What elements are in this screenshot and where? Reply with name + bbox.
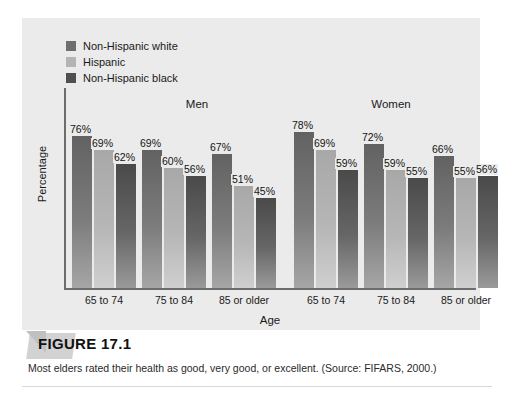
- bar-value-label: 76%: [69, 124, 92, 135]
- bar: [164, 168, 184, 288]
- caption-divider: [22, 386, 492, 387]
- bar: [316, 150, 336, 288]
- bar: [434, 156, 454, 288]
- bar: [94, 150, 114, 288]
- bar: [386, 170, 406, 288]
- figure-caption-block: FIGURE 17.1 Most elders rated their heal…: [0, 330, 513, 401]
- bar-value-label: 59%: [335, 158, 358, 169]
- bar-group: 67%51%45%: [212, 88, 276, 288]
- bar: [212, 154, 232, 288]
- legend-label: Non-Hispanic black: [83, 72, 178, 84]
- bar: [116, 164, 136, 288]
- figure-number: FIGURE 17.1: [38, 335, 131, 352]
- bar: [364, 144, 384, 288]
- category-label: 65 to 74: [64, 294, 144, 306]
- bar: [72, 136, 92, 288]
- y-axis-title: Percentage: [36, 134, 48, 214]
- legend-swatch-icon: [66, 41, 76, 51]
- category-label: 75 to 84: [134, 294, 214, 306]
- bar-value-label: 62%: [113, 152, 136, 163]
- bar: [478, 176, 498, 288]
- bar-group: 76%69%62%: [72, 88, 136, 288]
- legend-item-hispanic: Hispanic: [66, 54, 178, 69]
- category-label: 65 to 74: [286, 294, 366, 306]
- bar: [338, 170, 358, 288]
- bar: [186, 176, 206, 288]
- legend-label: Hispanic: [83, 56, 125, 68]
- bar: [456, 178, 476, 288]
- category-label: 75 to 84: [356, 294, 436, 306]
- bar-value-label: 59%: [383, 158, 406, 169]
- bar: [234, 186, 254, 288]
- bar-value-label: 67%: [209, 142, 232, 153]
- category-label: 85 or older: [426, 294, 506, 306]
- bar-value-label: 55%: [405, 166, 428, 177]
- bar-value-label: 69%: [139, 138, 162, 149]
- bar-value-label: 69%: [91, 138, 114, 149]
- legend-item-non-hispanic-white: Non-Hispanic white: [66, 38, 178, 53]
- bar-value-label: 56%: [475, 164, 498, 175]
- bar-value-label: 66%: [431, 144, 454, 155]
- figure-root: Non-Hispanic white Hispanic Non-Hispanic…: [0, 0, 513, 401]
- legend-label: Non-Hispanic white: [83, 40, 178, 52]
- figure-caption-text: Most elders rated their health as good, …: [28, 362, 488, 375]
- bar-value-label: 45%: [253, 186, 276, 197]
- x-axis-title: Age: [64, 314, 476, 326]
- category-label: 85 or older: [204, 294, 284, 306]
- bar-group: 66%55%56%: [434, 88, 498, 288]
- legend-item-non-hispanic-black: Non-Hispanic black: [66, 70, 178, 85]
- bar-group: 72%59%55%: [364, 88, 428, 288]
- chart-legend: Non-Hispanic white Hispanic Non-Hispanic…: [66, 38, 178, 86]
- bar-value-label: 55%: [453, 166, 476, 177]
- bar: [256, 198, 276, 288]
- bar-group: 78%69%59%: [294, 88, 358, 288]
- bar-value-label: 72%: [361, 132, 384, 143]
- bar-value-label: 69%: [313, 138, 336, 149]
- legend-swatch-icon: [66, 57, 76, 67]
- x-axis-line: [64, 288, 476, 290]
- bar-value-label: 78%: [291, 120, 314, 131]
- bar: [294, 132, 314, 288]
- legend-swatch-icon: [66, 73, 76, 83]
- chart-panel: Non-Hispanic white Hispanic Non-Hispanic…: [22, 18, 480, 330]
- bar-value-label: 60%: [161, 156, 184, 167]
- bar-value-label: 51%: [231, 174, 254, 185]
- bar: [142, 150, 162, 288]
- bar-value-label: 56%: [183, 164, 206, 175]
- bar-group: 69%60%56%: [142, 88, 206, 288]
- bar: [408, 178, 428, 288]
- plot-area: 76%69%62%69%60%56%67%51%45%78%69%59%72%5…: [66, 88, 476, 288]
